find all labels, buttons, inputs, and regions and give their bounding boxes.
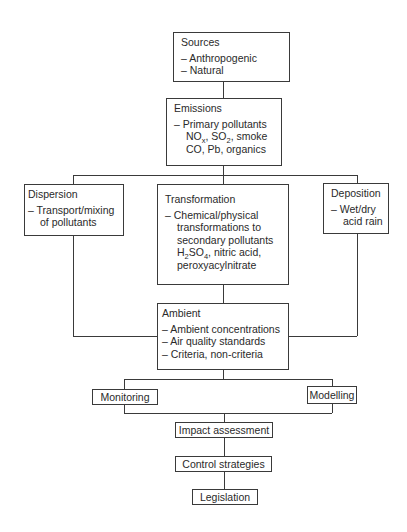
h-text: H <box>177 246 185 258</box>
control-strategies-box: Control strategies <box>175 456 272 472</box>
connector-monitor-model-bottom <box>124 413 332 414</box>
connector-impact-control <box>224 438 225 456</box>
legislation-box: Legislation <box>192 489 258 505</box>
ambient-item: – Criteria, non-criteria <box>162 348 288 361</box>
sources-item: – Anthropogenic <box>181 52 289 65</box>
connector-to-deposition <box>357 175 358 183</box>
connector-to-modelling <box>332 379 333 386</box>
connector-ambient-down <box>223 370 224 379</box>
deposition-item: – Wet/dry <box>331 203 388 216</box>
transformation-item-cont: transformations to <box>165 221 288 234</box>
so4-text: SO <box>189 246 204 258</box>
smoke-text: , smoke <box>231 130 268 142</box>
transformation-item: – Chemical/physical <box>165 209 288 222</box>
connector-dispersion-down <box>73 236 74 336</box>
nox-text: NO <box>186 130 202 142</box>
transformation-item-cont: secondary pollutants <box>165 234 288 247</box>
so2-text: , SO <box>206 130 227 142</box>
dispersion-box: Dispersion – Transport/mixing of polluta… <box>24 184 124 236</box>
connector-control-legislation <box>224 472 225 489</box>
ambient-box: Ambient – Ambient concentrations – Air q… <box>157 303 289 370</box>
connector-sources-emissions <box>223 82 224 98</box>
sources-title: Sources <box>181 36 289 49</box>
transformation-last-line: peroxyacylnitrate <box>165 259 288 272</box>
emissions-box: Emissions – Primary pollutants NOx, SO2,… <box>166 98 282 166</box>
connector-branch-horizontal <box>73 175 357 176</box>
emissions-pollutants-line1: NOx, SO2, smoke <box>174 130 281 143</box>
sources-box: Sources – Anthropogenic – Natural <box>173 32 290 82</box>
emissions-title: Emissions <box>174 102 281 115</box>
dispersion-item: – Transport/mixing <box>28 204 123 217</box>
connector-transformation-ambient <box>223 285 224 303</box>
emissions-pollutants-line2: CO, Pb, organics <box>174 143 281 156</box>
ambient-item: – Ambient concentrations <box>162 323 288 336</box>
connector-to-impact <box>224 413 225 422</box>
ambient-item: – Air quality standards <box>162 335 288 348</box>
dispersion-item-cont: of pollutants <box>28 216 123 229</box>
connector-monitor-model-top <box>124 379 332 380</box>
impact-assessment-box: Impact assessment <box>175 422 273 438</box>
connector-to-transformation <box>223 175 224 184</box>
connector-monitoring-down <box>124 405 125 413</box>
deposition-item-cont: acid rain <box>331 215 388 228</box>
connector-deposition-down <box>357 234 358 336</box>
deposition-box: Deposition – Wet/dry acid rain <box>323 183 389 234</box>
connector-dispersion-ambient <box>73 336 157 337</box>
dispersion-title: Dispersion <box>28 188 123 201</box>
transformation-title: Transformation <box>165 193 288 206</box>
connector-to-monitoring <box>124 379 125 389</box>
transformation-box: Transformation – Chemical/physical trans… <box>157 184 289 285</box>
monitoring-box: Monitoring <box>92 389 158 405</box>
modelling-box: Modelling <box>307 386 357 404</box>
ambient-title: Ambient <box>162 307 288 320</box>
connector-to-dispersion <box>73 175 74 184</box>
connector-deposition-ambient <box>289 336 357 337</box>
transformation-h2so4-line: H2SO4, nitric acid, <box>165 246 288 259</box>
connector-modelling-down <box>332 404 333 413</box>
deposition-title: Deposition <box>331 187 388 200</box>
emissions-item: – Primary pollutants <box>174 118 281 131</box>
connector-emissions-branch <box>223 166 224 175</box>
nitric-acid-text: , nitric acid, <box>208 246 261 258</box>
sources-item: – Natural <box>181 64 289 77</box>
